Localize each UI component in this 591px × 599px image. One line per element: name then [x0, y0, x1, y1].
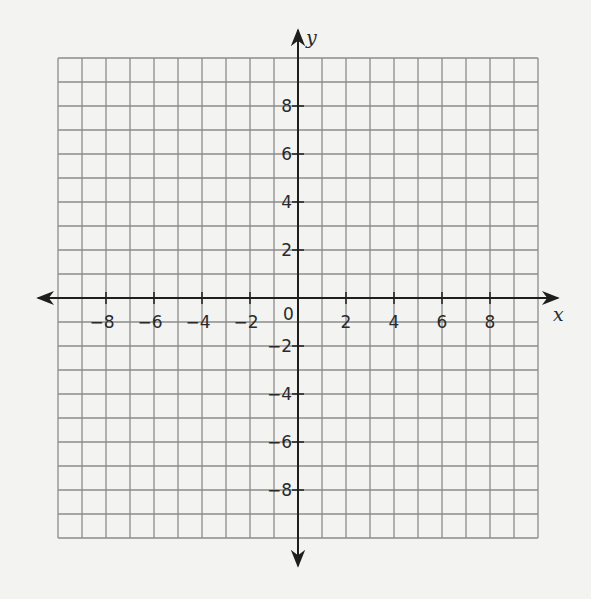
x-tick-label: 4: [389, 312, 400, 332]
x-tick-label: −8: [89, 312, 114, 332]
x-axis-label: x: [553, 303, 564, 325]
y-tick-label: −4: [267, 384, 292, 404]
coordinate-plane: −8−6−4−22468−8−6−4−22468 0 x y: [0, 0, 591, 599]
y-tick-label: −6: [267, 432, 292, 452]
x-tick-label: −6: [137, 312, 162, 332]
x-tick-label: 8: [485, 312, 496, 332]
y-axis-label: y: [305, 26, 317, 48]
origin-label: 0: [283, 304, 294, 324]
x-tick-label: 6: [437, 312, 448, 332]
y-tick-label: 8: [281, 96, 292, 116]
y-tick-label: 6: [281, 144, 292, 164]
x-tick-label: 2: [341, 312, 352, 332]
x-tick-label: −4: [185, 312, 210, 332]
x-tick-label: −2: [233, 312, 258, 332]
y-tick-label: −2: [267, 336, 292, 356]
y-tick-label: 4: [281, 192, 292, 212]
y-tick-label: −8: [267, 480, 292, 500]
y-tick-label: 2: [281, 240, 292, 260]
